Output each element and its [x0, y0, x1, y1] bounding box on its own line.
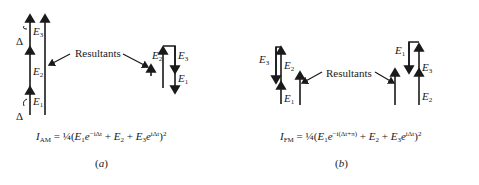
label-a-delta-top: Δ — [16, 36, 23, 47]
label-b-e3: E3 — [259, 54, 269, 67]
label-a-resultants: Resultants — [75, 48, 121, 59]
label-b-right-e3: E3 — [422, 62, 432, 75]
caption-a: (a) — [95, 157, 108, 169]
label-b-right-e2: E2 — [422, 91, 432, 104]
label-a-e2: E2 — [33, 66, 43, 79]
label-b-right-e1: E1 — [395, 45, 405, 58]
label-a-right-e3: E3 — [178, 50, 188, 63]
label-b-e2: E2 — [284, 60, 294, 73]
formula-fm: IFM = ¼(E1e−i(Δt+π) + E2 + E3eiΔt)2 — [280, 131, 421, 144]
label-a-right-e1: E1 — [178, 73, 188, 86]
label-a-e3: E3 — [33, 26, 43, 39]
phasor-diagram-canvas — [0, 0, 479, 185]
label-b-resultants: Resultants — [326, 68, 372, 79]
label-a-delta-bottom: Δ — [16, 111, 23, 122]
label-a-e1: E1 — [33, 96, 43, 109]
label-a-right-e2: E2 — [152, 50, 162, 63]
label-b-e1: E1 — [284, 93, 294, 106]
formula-am: IAM = ¼(E1e−iΔt + E2 + E3eiΔt)2 — [36, 131, 166, 144]
caption-b: (b) — [335, 157, 348, 169]
